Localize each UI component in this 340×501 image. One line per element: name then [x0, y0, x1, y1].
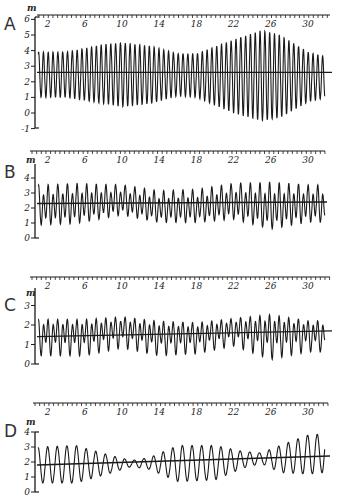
x-tick-label: 10 [116, 407, 128, 417]
y-tick-label: 2 [23, 203, 30, 213]
y-unit-label-b: m [26, 155, 36, 165]
y-unit-label-c: m [26, 288, 36, 298]
y-tick-label: 3 [24, 301, 30, 311]
x-tick-label: 14 [153, 155, 165, 165]
x-tick-label: 18 [191, 155, 203, 165]
panel-a: A m 6543210-1 26101418222630 [4, 3, 332, 134]
y-tick-label: 3 [24, 61, 30, 71]
y-tick-label: 5 [24, 30, 30, 40]
y-tick-label: 2 [23, 77, 30, 87]
x-tick-label: 6 [82, 407, 88, 417]
y-tick-label: 3 [24, 442, 30, 452]
panel-c: C m 3210 26101418222630 [4, 277, 332, 369]
y-tick-label: 0 [24, 487, 30, 497]
x-tick-label: 22 [227, 281, 240, 291]
x-tick-label: 2 [44, 19, 51, 29]
x-tick-label: 6 [82, 155, 88, 165]
y-tick-label: 2 [23, 320, 30, 330]
y-axis-a: 6543210-1 [21, 14, 39, 133]
panel-letter-b: B [4, 162, 16, 182]
x-tick-bar-d: 26101418222630 [33, 403, 328, 417]
x-tick-bar-a: 26101418222630 [37, 15, 330, 29]
x-tick-label: 30 [302, 281, 314, 291]
x-tick-label: 14 [153, 407, 165, 417]
panel-d: D m 43210 26101418222630 [4, 403, 330, 497]
y-tick-label: 4 [23, 46, 30, 56]
panel-b: B m 43210 26101418222630 [4, 151, 327, 243]
tide-curve-b [38, 182, 324, 229]
y-tick-label: 2 [23, 457, 30, 467]
panel-letter-a: A [4, 14, 16, 34]
panel-letter-c: C [4, 295, 16, 315]
x-tick-bar-b: 26101418222630 [30, 151, 325, 165]
y-tick-label: 1 [24, 472, 30, 482]
y-axis-d: 43210 [23, 427, 39, 497]
y-tick-label: 4 [23, 173, 30, 183]
x-tick-label: 10 [116, 19, 128, 29]
x-tick-label: 22 [227, 155, 240, 165]
y-tick-label: 1 [24, 218, 30, 228]
x-tick-label: 26 [264, 19, 277, 29]
y-axis-c: 3210 [23, 288, 39, 369]
y-tick-label: 0 [24, 233, 30, 243]
tide-curve-a [38, 31, 324, 121]
y-tick-label: 0 [24, 108, 30, 118]
x-tick-label: 2 [44, 155, 51, 165]
x-tick-label: 18 [191, 281, 203, 291]
y-tick-label: 0 [24, 359, 30, 369]
y-axis-b: 43210 [23, 164, 39, 243]
x-tick-label: 2 [44, 407, 51, 417]
y-unit-label-d: m [26, 417, 36, 427]
y-unit-label-a: m [27, 3, 37, 13]
x-tick-label: 10 [116, 281, 128, 291]
x-tick-label: 30 [302, 407, 314, 417]
x-tick-label: 22 [227, 19, 240, 29]
x-tick-label: 14 [153, 281, 165, 291]
x-tick-label: 26 [264, 155, 277, 165]
y-tick-label: 4 [23, 427, 30, 437]
x-tick-label: 26 [264, 281, 277, 291]
x-tick-label: 10 [116, 155, 128, 165]
x-tick-label: 22 [227, 407, 240, 417]
y-tick-label: 3 [24, 188, 30, 198]
x-tick-label: 30 [302, 19, 314, 29]
tide-records-figure: A m 6543210-1 26101418222630 B m 43210 2… [0, 0, 340, 501]
panel-letter-d: D [4, 421, 17, 441]
y-tick-label: 1 [24, 92, 30, 102]
tide-curve-d [38, 434, 324, 483]
x-tick-label: 30 [302, 155, 314, 165]
y-tick-label: -1 [21, 124, 30, 134]
y-tick-label: 1 [24, 340, 30, 350]
x-tick-label: 26 [264, 407, 277, 417]
x-tick-label: 6 [82, 19, 88, 29]
x-tick-bar-c: 26101418222630 [30, 277, 330, 291]
tide-curve-c [38, 315, 324, 360]
x-tick-label: 18 [191, 19, 203, 29]
y-tick-label: 6 [24, 14, 30, 24]
x-tick-label: 2 [44, 281, 51, 291]
x-tick-label: 14 [153, 19, 165, 29]
x-tick-label: 18 [191, 407, 203, 417]
x-tick-label: 6 [82, 281, 88, 291]
